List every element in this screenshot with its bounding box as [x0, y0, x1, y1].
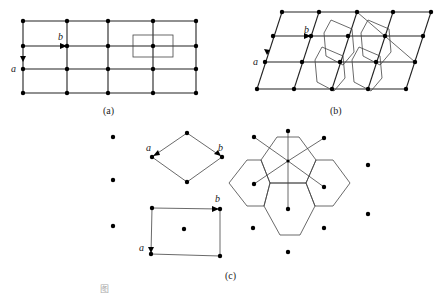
lattice-figure: b a (a) b [0, 0, 440, 293]
arrow-a-icon [153, 150, 160, 156]
hexagonal-cells-b [315, 20, 391, 91]
figure-caption: 图 [100, 284, 109, 293]
rhombic-cell [152, 133, 222, 182]
label-b-rect: b [215, 193, 220, 204]
caption-b: (b) [330, 105, 342, 117]
caption-c: (c) [225, 270, 236, 282]
label-b: b [304, 24, 309, 35]
caption-a: (a) [103, 105, 114, 117]
label-a-rect: a [139, 242, 144, 253]
label-a: a [11, 63, 16, 74]
hexagonal-cells-c [229, 137, 350, 235]
panel-b: b a (b) [253, 10, 433, 117]
centered-rectangular-cell [151, 208, 220, 256]
lattice-points-c-left [111, 135, 115, 228]
panel-a: b a (a) [11, 19, 198, 117]
label-a: a [253, 56, 258, 67]
label-b-rhombus: b [218, 142, 223, 153]
arrow-a-icon [20, 56, 26, 62]
label-a-rhombus: a [146, 142, 151, 153]
label-b: b [58, 31, 63, 42]
panel-c: a b b a [111, 129, 370, 282]
